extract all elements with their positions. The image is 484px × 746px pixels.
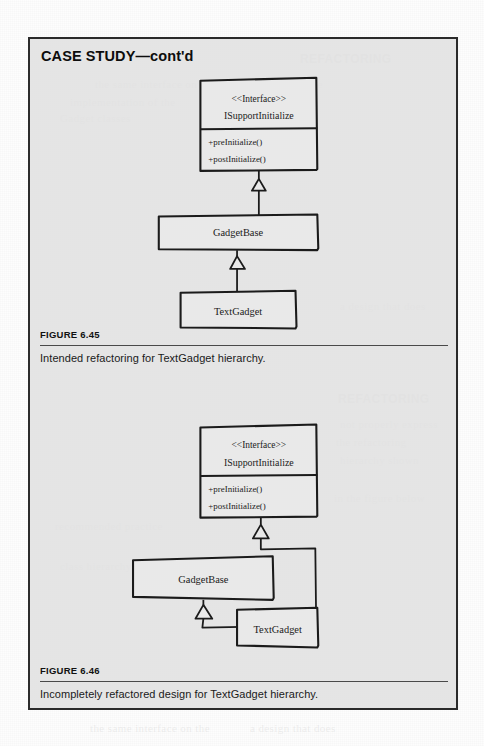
ghost-text: the same interface on the [90, 722, 210, 734]
uml-class-name: ISupportInitialize [224, 110, 294, 121]
ghost-text: a design that does [250, 722, 336, 734]
figure-rule [40, 681, 448, 682]
uml-operation: +postInitialize() [208, 501, 265, 511]
uml-class-name: TextGadget [254, 624, 302, 635]
uml-operation: +postInitialize() [208, 154, 265, 164]
case-study-panel: CASE STUDY—cont'd [28, 37, 458, 710]
case-study-title: CASE STUDY—cont'd [41, 48, 194, 64]
uml-stereotype: <<Interface>> [232, 94, 287, 104]
scanned-page: REFACTORING the same interface on the re… [0, 0, 484, 746]
uml-operation: +preInitialize() [208, 137, 262, 147]
figure-6-45-diagram: <<Interface>> ISupportInitialize +preIni… [30, 39, 456, 708]
uml-class-name: TextGadget [214, 306, 262, 317]
uml-class-name: GadgetBase [213, 227, 264, 238]
uml-class-name: ISupportInitialize [224, 457, 294, 468]
figure-caption: Intended refactoring for TextGadget hier… [40, 352, 266, 364]
figure-caption: Incompletely refactored design for TextG… [40, 688, 318, 700]
figure-label: FIGURE 6.45 [40, 329, 100, 340]
figure-6-46-diagram: <<Interface>> ISupportInitialize +preIni… [30, 39, 456, 708]
uml-stereotype: <<Interface>> [232, 440, 287, 450]
figure-label: FIGURE 6.46 [40, 665, 100, 676]
figure-rule [40, 345, 448, 346]
uml-class-name: GadgetBase [178, 574, 229, 585]
uml-operation: +preInitialize() [208, 484, 262, 494]
